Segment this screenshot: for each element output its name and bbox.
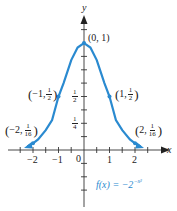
y-tick-label-quarter: 14 xyxy=(71,116,79,131)
point-label-pos1: (1,12) xyxy=(115,87,139,102)
point-label-neg2: (−2,116) xyxy=(5,123,38,138)
y-axis xyxy=(81,22,87,207)
point-label-pos2: (2,116) xyxy=(135,123,162,138)
y-axis-arrow-icon xyxy=(81,15,88,24)
y-tick-label-half: 12 xyxy=(71,89,79,104)
point-label-0-1: (0, 1) xyxy=(88,33,110,43)
point-neg2 xyxy=(31,141,35,145)
y-axis-label: y xyxy=(82,3,86,13)
x-axis-label: x xyxy=(167,145,171,155)
point-label-neg1: (−1,12) xyxy=(28,87,57,102)
x-tick-label-neg1: −1 xyxy=(52,155,63,165)
origin-label: 0 xyxy=(76,154,81,164)
point-0 xyxy=(82,41,86,45)
point-pos2 xyxy=(133,141,137,145)
function-label: f(x) = −2−x² xyxy=(96,178,142,190)
x-tick-label-neg2: −2 xyxy=(27,155,38,165)
point-pos1 xyxy=(108,95,112,99)
x-tick-label-2: 2 xyxy=(132,155,137,165)
x-tick-label-1: 1 xyxy=(107,155,112,165)
